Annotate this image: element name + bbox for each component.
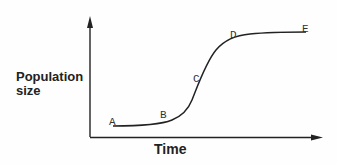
point-label-e: E — [302, 23, 309, 35]
y-axis-arrow-icon — [87, 16, 93, 28]
point-label-d: D — [230, 29, 237, 41]
y-axis-label: Population size — [16, 70, 83, 98]
sigmoid-curve — [113, 32, 306, 126]
y-axis-label-line1: Population — [16, 70, 83, 84]
x-axis-label: Time — [154, 141, 186, 157]
point-label-c: C — [193, 73, 200, 85]
point-label-b: B — [160, 109, 167, 121]
point-label-a: A — [109, 116, 116, 128]
x-axis-arrow-icon — [311, 135, 323, 141]
y-axis-label-line2: size — [16, 84, 83, 98]
